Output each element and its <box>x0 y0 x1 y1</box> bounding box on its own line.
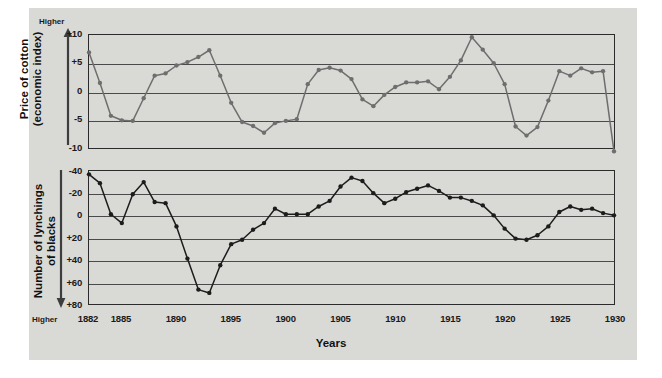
bottom-chart-plot-area <box>88 170 615 305</box>
bottom-ytick-minus40: -40 <box>42 165 82 176</box>
xtick-1920: 1920 <box>485 313 525 324</box>
xtick-1885: 1885 <box>101 313 141 324</box>
top-ytick-zero: 0 <box>42 85 82 96</box>
xtick-1900: 1900 <box>266 313 306 324</box>
bottom-ytick-minus20: -20 <box>42 187 82 198</box>
bottom-chart-higher-label: Higher <box>32 315 57 324</box>
top-ytick-plus10: +10 <box>42 28 82 39</box>
bottom-ytick-zero: 0 <box>42 209 82 220</box>
xtick-1930: 1930 <box>595 313 635 324</box>
top-chart-plot-area <box>88 34 615 149</box>
bottom-chart-series-layer <box>89 171 614 304</box>
top-y-title-line1: Price of cotton <box>18 39 30 120</box>
xtick-1895: 1895 <box>211 313 251 324</box>
bottom-ytick-plus80: +80 <box>42 299 82 310</box>
top-ytick-minus10: -10 <box>42 142 82 153</box>
top-ytick-plus5: +5 <box>42 56 82 67</box>
figure-root: Price of cotton (economic index) Higher … <box>0 0 662 378</box>
xtick-1905: 1905 <box>321 313 361 324</box>
xtick-1915: 1915 <box>430 313 470 324</box>
bottom-ytick-plus40: +40 <box>42 254 82 265</box>
top-chart-y-axis-title: Price of cotton (economic index) <box>18 24 44 134</box>
bottom-ytick-plus60: +60 <box>42 277 82 288</box>
top-ytick-minus5: -5 <box>42 113 82 124</box>
top-chart-higher-label: Higher <box>39 17 64 26</box>
xtick-1910: 1910 <box>375 313 415 324</box>
xtick-1890: 1890 <box>156 313 196 324</box>
x-axis-title: Years <box>0 337 662 349</box>
xtick-1925: 1925 <box>540 313 580 324</box>
top-chart-series-layer <box>89 35 614 148</box>
bottom-ytick-plus20: +20 <box>42 232 82 243</box>
